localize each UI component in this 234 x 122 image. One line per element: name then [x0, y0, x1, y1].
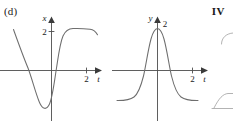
figure-canvas: x 2 2 t y 2 2 t [0, 0, 233, 121]
right-graph-y-axis-label: y [148, 13, 153, 23]
left-graph-x-tick-label: 2 [84, 74, 89, 84]
right-graph-x-tick-label: 2 [190, 74, 195, 84]
left-graph-horizontal-axis-arrowhead [95, 67, 102, 74]
cropped-curve-fragment-bottom [214, 94, 233, 109]
left-graph-y-tick-label: 2 [42, 27, 47, 37]
right-graph: y 2 2 t [112, 13, 208, 121]
left-graph-x-axis-label: t [97, 74, 100, 84]
right-graph-y-tick-label: 2 [163, 19, 168, 29]
cropped-neighbor-fragments [212, 33, 233, 109]
left-graph-vertical-axis-arrowhead [48, 17, 55, 24]
right-graph-vertical-axis-arrowhead [154, 17, 161, 24]
cropped-curve-fragment-top [222, 33, 234, 44]
left-graph: x 2 2 t [0, 13, 102, 122]
left-graph-curve [14, 29, 98, 109]
left-graph-y-axis-label: x [42, 13, 47, 23]
right-graph-horizontal-axis-arrowhead [201, 67, 208, 74]
right-graph-x-axis-label: t [203, 74, 206, 84]
figure-container: (d) IV x 2 2 t [0, 0, 233, 121]
